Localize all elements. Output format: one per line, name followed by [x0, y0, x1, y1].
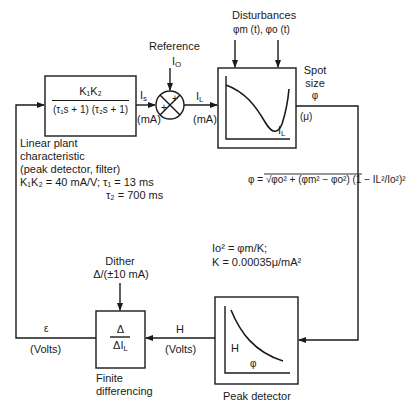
reference-signal: IO: [172, 55, 181, 71]
spot-size-label-1: Spot: [300, 64, 330, 77]
junction-sign-left: +: [161, 101, 167, 114]
finite-diff-denominator: ΔIL: [96, 339, 145, 355]
spot-block-axis-label: IL: [278, 124, 286, 140]
peak-detector-y-label: H: [231, 342, 239, 355]
dither-label: Dither: [90, 255, 150, 268]
error-unit: (Volts): [30, 343, 61, 356]
plant-fraction-bar: [52, 100, 129, 101]
dither-value: Δ/(±10 mA): [86, 268, 156, 281]
plant-caption-3: (peak detector, filter): [20, 163, 120, 176]
is-label: Is: [140, 89, 147, 105]
finite-diff-caption-1: Finite: [96, 372, 123, 385]
plant-caption-2: characteristic: [20, 150, 85, 163]
plant-denominator: (τ₁s + 1) (τ₂s + 1): [45, 103, 136, 116]
h-label: H: [176, 323, 184, 336]
spot-size-label-3: φ: [300, 89, 330, 102]
plant-params-2: τ₂ = 700 ms: [106, 189, 163, 202]
reference-label: Reference: [149, 40, 200, 53]
constants-line-2: K = 0.00035μ/mA²: [212, 256, 301, 269]
spot-equation: φ = √φo² + (φm² − φo²) (1 − IL²/Io²)²: [248, 173, 406, 186]
plant-caption-1: Linear plant: [20, 137, 78, 150]
plant-numerator: K₁K₂: [45, 85, 136, 98]
spot-size-unit: (μ): [300, 110, 312, 123]
finite-diff-numerator: Δ: [96, 323, 145, 336]
peak-detector-caption: Peak detector: [223, 390, 291, 403]
constants-line-1: Io² = φm/K;: [212, 242, 267, 255]
h-unit: (Volts): [165, 343, 196, 356]
disturbances-signals: φm (t), φo (t): [233, 23, 290, 36]
junction-sign-top: +: [172, 92, 178, 105]
peak-detector-block-frame: [215, 297, 298, 384]
finite-diff-caption-2: differencing: [96, 385, 153, 398]
peak-detector-x-label: φ: [250, 357, 256, 370]
il-label: IL: [196, 90, 204, 106]
error-label: ε: [44, 322, 48, 335]
plant-params-1: K₁K₂ = 40 mA/V; τ₁ = 13 ms: [20, 176, 154, 189]
il-unit: (mA): [193, 113, 217, 126]
is-unit: (mA): [137, 113, 161, 126]
disturbances-label: Disturbances: [232, 9, 296, 22]
spot-size-wire: [296, 106, 358, 340]
